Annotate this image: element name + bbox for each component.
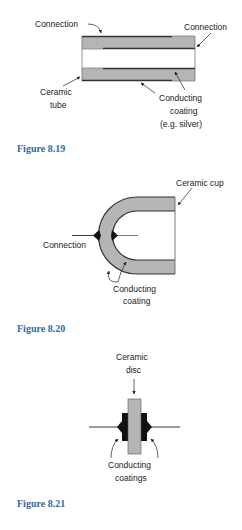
ceramic-tube — [82, 36, 195, 81]
label-conducting: Conducting — [108, 460, 151, 470]
label-silver: (e.g. silver) — [160, 119, 202, 129]
arrow-icon — [108, 271, 118, 282]
figure-8-21: Ceramic disc Conducting coatings Figure … — [17, 352, 180, 509]
label-coatings: coatings — [115, 473, 147, 483]
arrow-icon — [63, 77, 80, 86]
label-ceramic: Ceramic — [40, 87, 72, 97]
figure-caption: Figure 8.20 — [17, 323, 65, 334]
arrow-icon — [178, 188, 192, 205]
arrow-icon — [197, 33, 211, 47]
arrow-icon — [88, 24, 101, 33]
label-disc: disc — [126, 365, 142, 375]
arrow-icon — [111, 439, 118, 458]
label-conducting: Conducting — [113, 284, 156, 294]
label-coating: coating — [170, 106, 198, 116]
label-ceramic-cup: Ceramic cup — [176, 178, 224, 188]
figure-8-20: Ceramic cup Connection Conducting coatin… — [17, 178, 224, 334]
label-connection-left: Connection — [35, 19, 78, 29]
figure-caption: Figure 8.21 — [17, 498, 65, 509]
figure-8-19: Connection Connection Ceramic tube Condu… — [17, 19, 227, 154]
arrow-icon — [151, 439, 158, 458]
ceramic-disc — [128, 399, 141, 454]
label-coating: coating — [123, 296, 151, 306]
label-ceramic: Ceramic — [116, 352, 148, 362]
label-connection: Connection — [43, 240, 86, 250]
arrow-icon — [141, 83, 155, 93]
label-tube: tube — [50, 100, 67, 110]
label-conducting: Conducting — [159, 93, 202, 103]
label-connection-right: Connection — [184, 22, 227, 32]
capacitor-diagrams: Connection Connection Ceramic tube Condu… — [0, 0, 242, 530]
figure-caption: Figure 8.19 — [17, 143, 65, 154]
